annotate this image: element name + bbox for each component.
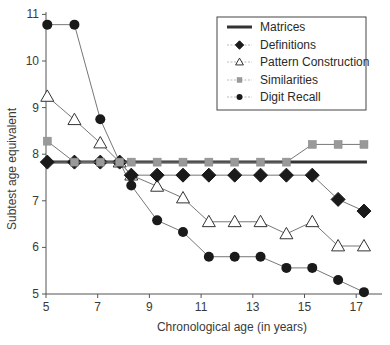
pattern-construction-point	[68, 113, 81, 124]
pattern-construction-point	[280, 227, 293, 238]
x-tick-label: 9	[146, 300, 153, 314]
digit-recall-point	[204, 252, 214, 262]
pattern-construction-point	[254, 215, 267, 226]
similarities-point	[257, 158, 265, 166]
digit-recall-point	[256, 252, 266, 262]
line-chart: 57911131517567891011 MatricesDefinitions…	[0, 0, 390, 345]
digit-recall-point	[152, 215, 162, 225]
similarities-point	[116, 158, 124, 166]
digit-recall-point	[42, 20, 52, 30]
y-tick-label: 8	[32, 147, 39, 161]
digit-recall-point	[230, 252, 240, 262]
series-pattern-construction	[41, 90, 371, 251]
similarities-point	[282, 158, 290, 166]
legend-swatch-marker	[237, 94, 243, 100]
x-tick-label: 7	[94, 300, 101, 314]
definitions-point	[357, 204, 371, 218]
y-tick-label: 11	[27, 7, 40, 21]
similarities-point	[205, 158, 213, 166]
definitions-point	[254, 168, 268, 182]
definitions-point	[202, 168, 216, 182]
digit-recall-point	[307, 263, 317, 273]
digit-recall-point	[95, 114, 105, 124]
legend-label: Pattern Construction	[260, 55, 369, 69]
legend-swatch-marker	[237, 78, 242, 83]
similarities-point	[360, 140, 368, 148]
x-tick-label: 17	[350, 300, 364, 314]
similarities-point	[127, 158, 135, 166]
similarities-point	[231, 158, 239, 166]
definitions-line	[47, 162, 364, 211]
definitions-point	[40, 155, 54, 169]
definitions-point	[228, 168, 242, 182]
legend: MatricesDefinitionsPattern ConstructionS…	[217, 17, 369, 110]
x-tick-label: 15	[298, 300, 312, 314]
x-tick-label: 13	[246, 300, 260, 314]
pattern-construction-point	[41, 90, 54, 101]
pattern-construction-point	[357, 240, 370, 251]
x-tick-label: 11	[195, 300, 208, 314]
digit-recall-point	[281, 263, 291, 273]
similarities-point	[96, 158, 104, 166]
pattern-construction-point	[228, 215, 241, 226]
similarities-point	[70, 158, 78, 166]
digit-recall-point	[69, 20, 79, 30]
legend-label: Similarities	[260, 73, 318, 87]
y-tick-label: 7	[32, 194, 39, 208]
similarities-point	[153, 158, 161, 166]
y-tick-label: 9	[32, 101, 39, 115]
x-axis-title: Chronological age (in years)	[157, 320, 307, 334]
definitions-point	[176, 168, 190, 182]
x-tick-label: 5	[43, 300, 50, 314]
legend-label: Digit Recall	[260, 90, 321, 104]
similarities-point	[179, 158, 187, 166]
y-tick-label: 10	[26, 54, 40, 68]
digit-recall-point	[178, 227, 188, 237]
similarities-point	[334, 140, 342, 148]
similarities-point	[43, 137, 51, 145]
definitions-point	[279, 168, 293, 182]
pattern-construction-point	[306, 215, 319, 226]
similarities-point	[308, 140, 316, 148]
definitions-point	[150, 168, 164, 182]
pattern-construction-point	[94, 137, 107, 148]
y-tick-label: 6	[32, 240, 39, 254]
legend-label: Definitions	[260, 38, 316, 52]
legend-label: Matrices	[260, 20, 305, 34]
digit-recall-point	[333, 275, 343, 285]
digit-recall-point	[359, 287, 369, 297]
y-tick-label: 5	[32, 287, 39, 301]
y-axis-title: Subtest age equivalent	[5, 107, 19, 230]
pattern-construction-point	[177, 192, 190, 203]
